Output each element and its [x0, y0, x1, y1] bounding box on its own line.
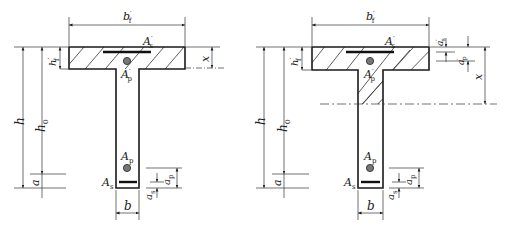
label-bottom-steel: As: [343, 176, 356, 191]
t-section-diagrams: b′f h h0 h′f a x A′s A′p Ap As: [0, 0, 505, 230]
label-flange-thickness: h′f: [47, 57, 61, 66]
left-diagram: b′f h h0 h′f a x A′s A′p Ap As: [13, 10, 225, 220]
label-cover: a: [271, 179, 284, 186]
compression-zone-hatch: [300, 40, 440, 130]
label-flange-width: b′f: [123, 10, 133, 25]
label-bottom-steel: As: [101, 176, 114, 191]
label-steel-cover: as: [143, 190, 157, 200]
label-cover: a: [29, 179, 42, 186]
top-tendon: [366, 57, 373, 64]
bottom-tendon: [123, 164, 130, 171]
label-top-steel-cover: a′s: [434, 38, 446, 46]
label-compression-depth: x: [472, 73, 485, 80]
right-diagram: b′f h h0 h′f a a′s a′p x: [254, 10, 497, 220]
label-top-prestress-cover: a′p: [455, 56, 468, 65]
label-top-steel: A′s: [384, 35, 396, 50]
label-total-height: h: [13, 117, 27, 125]
label-top-prestress: A′p: [120, 68, 133, 83]
label-top-prestress: A′p: [363, 68, 376, 83]
label-prestress-cover: ap: [403, 174, 417, 185]
label-bottom-prestress: Ap: [120, 150, 134, 165]
label-flange-width: b′f: [366, 10, 376, 25]
label-compression-depth: x: [199, 55, 212, 62]
top-tendon: [123, 57, 130, 64]
label-flange-thickness: h′f: [289, 57, 303, 66]
label-effective-depth: h0: [276, 119, 292, 132]
label-bottom-prestress: Ap: [363, 150, 377, 165]
label-total-height: h: [254, 117, 268, 125]
label-web-width: b: [367, 199, 375, 213]
bottom-tendon: [366, 164, 373, 171]
label-prestress-cover: ap: [161, 174, 175, 185]
label-top-steel: A′s: [142, 35, 154, 50]
label-web-width: b: [124, 199, 132, 213]
label-steel-cover: as: [385, 190, 399, 200]
label-effective-depth: h0: [34, 119, 50, 132]
